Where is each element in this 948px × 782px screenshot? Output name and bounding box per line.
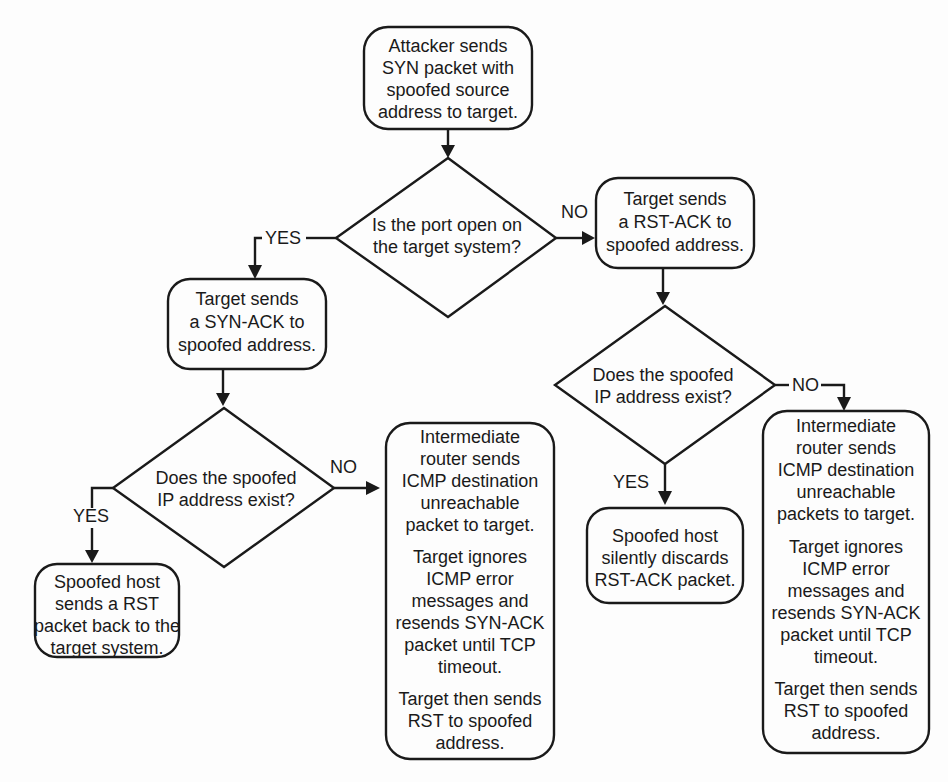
start-box-line: SYN packet with — [382, 58, 514, 78]
arrow-left-no: NO — [330, 457, 380, 495]
syn-spoof-flowchart: Attacker sends SYN packet with spoofed s… — [0, 0, 948, 782]
right-no-result-line: Target ignores — [789, 537, 903, 557]
arrow-syn-ack-to-decision — [216, 369, 230, 406]
rst-ack-box: Target sends a RST-ACK to spoofed addres… — [596, 178, 754, 268]
yes-label: YES — [613, 472, 649, 492]
right-no-result-line: messages and — [787, 581, 904, 601]
start-box-line: spoofed source — [386, 80, 509, 100]
right-yes-result-line: RST-ACK packet. — [594, 570, 735, 590]
right-no-result-line: RST to spoofed — [784, 701, 909, 721]
decision-port-open-line: Is the port open on — [372, 215, 522, 235]
arrow-right-no: NO — [775, 375, 851, 411]
left-yes-result-line: Spoofed host — [54, 572, 160, 592]
yes-label: YES — [265, 228, 301, 248]
left-no-result-line: ICMP destination — [402, 471, 539, 491]
left-no-result-line: resends SYN-ACK — [395, 613, 544, 633]
left-yes-result-box: Spoofed host sends a RST packet back to … — [34, 564, 180, 658]
right-yes-result-line: Spoofed host — [612, 526, 718, 546]
syn-ack-box-line: a SYN-ACK to — [189, 312, 304, 332]
left-no-result-line: unreachable — [420, 493, 519, 513]
left-no-result-line: Target then sends — [398, 689, 541, 709]
right-no-result-line: unreachable — [796, 482, 895, 502]
syn-ack-box-line: spoofed address. — [178, 335, 316, 355]
right-no-result-line: router sends — [796, 438, 896, 458]
rst-ack-box-line: spoofed address. — [606, 235, 744, 255]
arrow-start-to-decision — [441, 129, 455, 158]
decision-right-ip-exists: Does the spoofed IP address exist? — [555, 306, 775, 464]
decision-left-line: Does the spoofed — [155, 468, 296, 488]
right-no-result-line: address. — [811, 723, 880, 743]
arrow-rst-ack-to-decision — [656, 268, 670, 305]
rst-ack-box-line: a RST-ACK to — [618, 212, 731, 232]
left-no-result-line: packet until TCP — [404, 635, 536, 655]
left-no-result-line: RST to spoofed — [408, 711, 533, 731]
start-box-line: Attacker sends — [388, 36, 507, 56]
left-no-result-line: packet to target. — [405, 515, 534, 535]
syn-ack-box: Target sends a SYN-ACK to spoofed addres… — [168, 279, 326, 369]
right-no-result-line: Target then sends — [774, 679, 917, 699]
left-no-result-line: messages and — [411, 591, 528, 611]
no-label: NO — [561, 202, 588, 222]
rst-ack-box-line: Target sends — [623, 189, 726, 209]
left-no-result-line: timeout. — [438, 657, 502, 677]
decision-left-ip-exists: Does the spoofed IP address exist? — [113, 408, 334, 567]
syn-ack-box-line: Target sends — [195, 289, 298, 309]
left-yes-result-line: target system. — [50, 638, 163, 658]
decision-right-line: IP address exist? — [594, 387, 732, 407]
right-no-result-line: packets to target. — [777, 504, 915, 524]
left-no-result-line: Intermediate — [420, 427, 520, 447]
yes-label: YES — [73, 506, 109, 526]
right-no-result-line: Intermediate — [796, 416, 896, 436]
decision-left-line: IP address exist? — [157, 490, 295, 510]
left-yes-result-line: sends a RST — [55, 594, 159, 614]
right-no-result-line: timeout. — [814, 647, 878, 667]
left-no-result-box: Intermediate router sends ICMP destinati… — [386, 423, 554, 759]
left-no-result-line: address. — [435, 733, 504, 753]
left-yes-result-line: packet back to the — [34, 616, 180, 636]
decision-port-open-line: the target system? — [373, 237, 521, 257]
right-no-result-line: ICMP destination — [778, 460, 915, 480]
right-no-result-box: Intermediate router sends ICMP destinati… — [763, 411, 929, 753]
start-box: Attacker sends SYN packet with spoofed s… — [364, 27, 532, 129]
no-label: NO — [330, 457, 357, 477]
arrow-port-open-no: NO — [556, 202, 595, 245]
left-no-result-line: ICMP error — [426, 569, 514, 589]
arrow-left-yes: YES — [73, 488, 113, 563]
decision-right-line: Does the spoofed — [592, 365, 733, 385]
right-no-result-line: packet until TCP — [780, 625, 912, 645]
right-no-result-line: ICMP error — [802, 559, 890, 579]
right-yes-result-line: silently discards — [601, 548, 728, 568]
right-yes-result-box: Spoofed host silently discards RST-ACK p… — [587, 508, 743, 603]
arrow-right-yes: YES — [613, 464, 672, 505]
arrow-port-open-yes: YES — [248, 228, 336, 279]
left-no-result-line: router sends — [420, 449, 520, 469]
right-no-result-line: resends SYN-ACK — [771, 603, 920, 623]
decision-port-open: Is the port open on the target system? — [336, 158, 556, 317]
start-box-line: address to target. — [378, 102, 518, 122]
left-no-result-line: Target ignores — [413, 547, 527, 567]
no-label: NO — [792, 375, 819, 395]
